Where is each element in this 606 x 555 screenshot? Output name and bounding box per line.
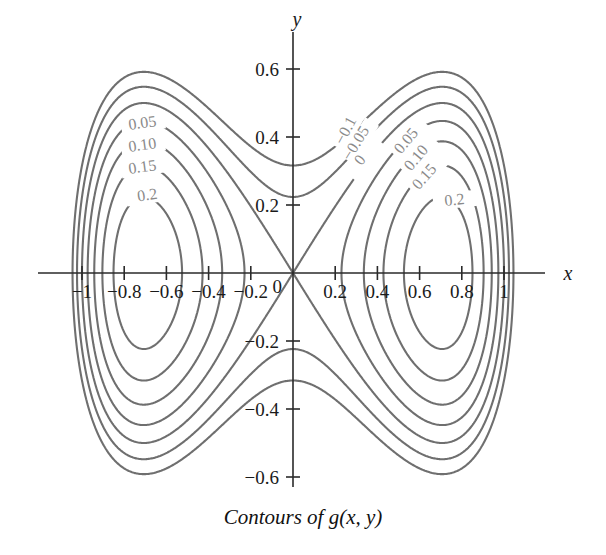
contour-label-left-3: 0.2: [136, 185, 158, 205]
x-tick-label: −0.4: [191, 281, 226, 302]
contour-plot-figure: −1−0.8−0.6−0.4−0.200.20.40.60.81−0.6−0.4…: [0, 0, 606, 555]
x-tick-label-0: 0: [273, 276, 283, 297]
y-tick-label: 0.6: [255, 59, 279, 80]
y-tick-label: 0.4: [255, 127, 279, 148]
y-tick-label: −0.6: [245, 467, 279, 488]
x-tick-label: 0.6: [408, 281, 432, 302]
y-tick-label: 0.2: [255, 195, 279, 216]
y-tick-label: −0.4: [245, 399, 280, 420]
x-tick-label: 0.2: [323, 281, 347, 302]
x-tick-label: −0.2: [234, 281, 268, 302]
x-tick-label: 0.4: [366, 281, 390, 302]
x-tick-label: −0.6: [149, 281, 183, 302]
figure-caption: Contours of g(x, y): [0, 505, 606, 530]
x-tick-label: 1: [499, 281, 509, 302]
contour-label-right-3: 0.2: [444, 190, 466, 209]
x-tick-label: 0.8: [450, 281, 474, 302]
x-axis-label: x: [563, 262, 573, 284]
y-axis-label: y: [291, 8, 302, 31]
y-tick-label: −0.2: [245, 331, 279, 352]
x-tick-label: −0.8: [107, 281, 141, 302]
x-tick-label: −1: [72, 281, 92, 302]
